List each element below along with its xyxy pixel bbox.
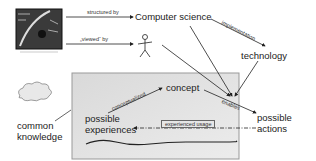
node-possible-actions-line1: possible	[257, 113, 292, 123]
edge-label-structured-by: structured by	[87, 9, 119, 15]
cloud-icon	[19, 82, 52, 101]
edge-label-viewed-by: „viewed“ by	[80, 36, 108, 42]
artwork-image-icon	[16, 9, 62, 49]
edge-label-experienced-usage: experienced usage	[161, 120, 215, 128]
person-icon	[138, 35, 152, 58]
node-possible-actions-line2: actions	[257, 124, 287, 134]
node-computer-science: Computer science	[135, 12, 212, 22]
node-concept: concept	[166, 83, 199, 93]
node-technology: technology	[241, 51, 287, 61]
node-possible-experiences-line2: experiences	[85, 125, 136, 135]
node-common-knowledge-line1: common	[17, 121, 53, 131]
diagram-canvas: structured by „viewed“ by Computer scien…	[0, 0, 316, 161]
node-common-knowledge-line2: knowledge	[17, 132, 62, 142]
node-possible-experiences-line1: possible	[85, 114, 120, 124]
